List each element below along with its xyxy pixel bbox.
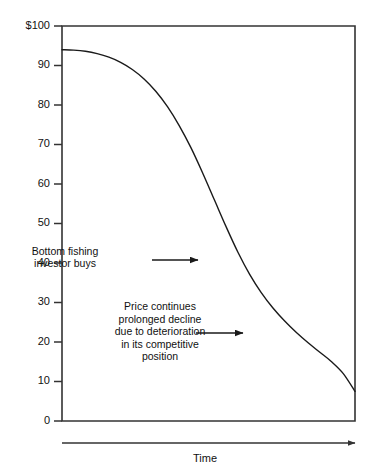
y-tick-label-10: 10 (38, 374, 50, 386)
y-tick-label-60: 60 (38, 177, 50, 189)
y-tick-label-70: 70 (38, 137, 50, 149)
annotation-line: Price continues (124, 300, 196, 312)
y-tick-label-0: 0 (44, 414, 50, 426)
y-tick-label-20: 20 (38, 335, 50, 347)
annotation-line: investor buys (34, 257, 96, 269)
y-tick-label-90: 90 (38, 58, 50, 70)
price-decline-chart: $1009080706050403020100 Bottom fishingin… (0, 0, 379, 476)
x-axis-title: Time (193, 452, 217, 464)
y-tick-label-80: 80 (38, 98, 50, 110)
annotation-line: due to deterioration (115, 325, 206, 337)
annotation-line: in its competitive (121, 338, 199, 350)
annotation-line: position (142, 350, 178, 362)
chart-canvas: $1009080706050403020100 Bottom fishingin… (0, 0, 379, 476)
annotation-line: prolonged decline (119, 313, 202, 325)
annotation-line: Bottom fishing (32, 245, 99, 257)
chart-background (0, 0, 379, 476)
y-tick-label-100: $100 (26, 19, 50, 31)
y-tick-label-50: 50 (38, 216, 50, 228)
y-tick-label-30: 30 (38, 295, 50, 307)
